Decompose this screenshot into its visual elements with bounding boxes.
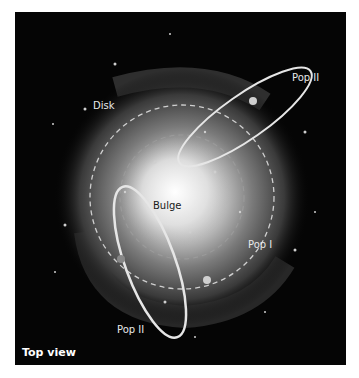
pop2-top-label: Pop II: [292, 72, 319, 83]
galaxy-top-view-diagram: Disk Bulge Pop I Pop II Pop II Top view: [15, 12, 346, 365]
bulge-label: Bulge: [153, 200, 181, 211]
pop2-bottom-label: Pop II: [117, 324, 144, 335]
caption: Top view: [22, 346, 76, 359]
disk-label: Disk: [93, 100, 114, 111]
galaxy-graphic: [15, 12, 346, 365]
pop1-label: Pop I: [248, 239, 272, 250]
